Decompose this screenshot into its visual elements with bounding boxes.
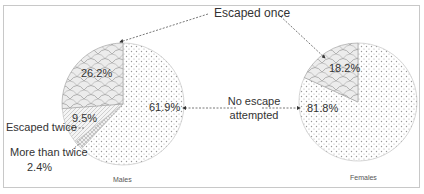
- females-none-pct: 81.8%: [307, 102, 338, 114]
- annotation-no-escape-line2: attempted: [225, 109, 283, 121]
- males-once-pct: 26.2%: [81, 67, 112, 79]
- males-title: Males: [113, 176, 132, 183]
- females-title: Females: [350, 174, 377, 181]
- males-twice-pct: 9.5%: [72, 112, 97, 124]
- annotation-more-than-twice-pct: 2.4%: [27, 161, 52, 173]
- annotation-escaped-twice: Escaped twice: [6, 121, 77, 133]
- annotation-no-escape-line1: No escape: [225, 95, 283, 107]
- females-once-pct: 18.2%: [329, 62, 360, 74]
- annotation-more-than-twice: More than twice: [10, 146, 88, 158]
- annotation-escaped-once: Escaped once: [214, 6, 290, 20]
- males-none-pct: 61.9%: [149, 101, 180, 113]
- pie-charts: [0, 0, 424, 194]
